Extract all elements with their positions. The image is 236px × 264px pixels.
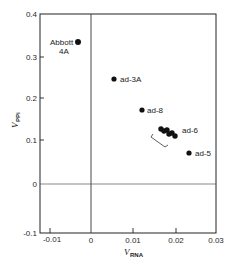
label-4a: 4A <box>59 47 69 56</box>
x-tick-label: 0.03 <box>208 236 224 245</box>
x-tick-label: 0.02 <box>168 236 184 245</box>
y-tick-label: 0.2 <box>26 94 38 103</box>
point-ad-5 <box>186 150 191 155</box>
point-ad-3a <box>111 76 116 81</box>
x-tick-label: -0.01 <box>43 235 62 244</box>
y-tick-label: 0 <box>33 180 38 189</box>
point-abbott-4a <box>75 39 81 45</box>
y-tick-label: -0.1 <box>23 229 37 238</box>
point-ad-8 <box>139 107 144 112</box>
x-tick-label: 0 <box>89 236 94 245</box>
scatter-chart: 0.4 0.3 0.2 0.1 0 -0.1 -0.01 0 0.01 0.02… <box>0 0 236 264</box>
x-axis-title: V RNA <box>124 247 144 258</box>
label-ad-3a: ad-3A <box>120 75 142 84</box>
label-ad-6: ad-6 <box>182 126 199 135</box>
svg-text:PPi: PPi <box>15 112 21 122</box>
ad-6-bracket <box>151 134 168 147</box>
label-ad-5: ad-5 <box>195 149 212 158</box>
y-tick-label: 0.1 <box>26 136 38 145</box>
label-abbott: Abbott <box>50 38 74 47</box>
y-tick-label: 0.4 <box>26 10 38 19</box>
svg-text:RNA: RNA <box>130 252 144 258</box>
y-axis-ticks <box>40 57 44 140</box>
label-ad-8: ad-8 <box>147 106 164 115</box>
y-tick-label: 0.3 <box>26 53 38 62</box>
data-points <box>75 39 192 156</box>
point-ad-6 <box>172 133 177 138</box>
x-axis-ticks <box>50 228 176 233</box>
y-axis-title: V PPi <box>10 112 21 128</box>
x-tick-label: 0.01 <box>125 236 141 245</box>
